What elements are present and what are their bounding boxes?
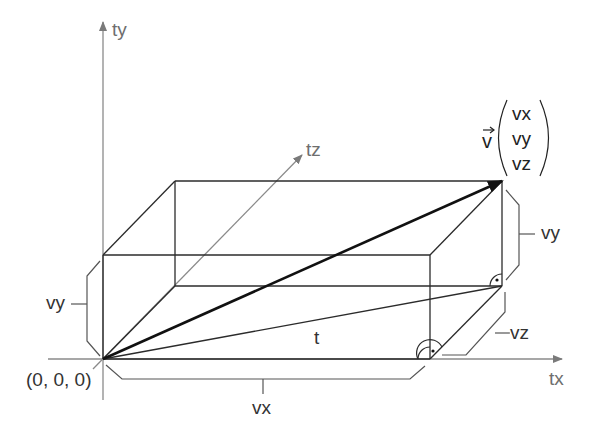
right-angle-marker-bottom [417, 340, 442, 359]
vector-diagram: ty tx tz (0, 0, 0) vy vy vx vz t v vx vy… [0, 0, 591, 434]
vector-v [103, 181, 502, 359]
bracket-vz [442, 292, 505, 355]
x-axis-label: tx [549, 369, 564, 388]
bracket-left-vy [87, 261, 100, 356]
axes [48, 22, 562, 400]
bracket-right-vy [506, 190, 519, 280]
vx-label: vx [252, 398, 271, 417]
vector-name: v [482, 130, 492, 153]
vector-component-x: vx [512, 104, 531, 123]
z-axis-label: tz [306, 140, 321, 159]
bracket-vx [106, 365, 425, 379]
vz-label: vz [510, 323, 529, 342]
origin-label: (0, 0, 0) [26, 370, 91, 389]
y-axis-label: ty [112, 20, 127, 39]
vector-component-z: vz [512, 154, 531, 173]
right-angle-marker-back [490, 274, 502, 286]
brackets [71, 190, 535, 394]
vector-component-y: vy [512, 129, 531, 148]
t-label: t [314, 328, 319, 347]
left-vy-label: vy [46, 293, 65, 312]
right-vy-label: vy [541, 223, 560, 242]
